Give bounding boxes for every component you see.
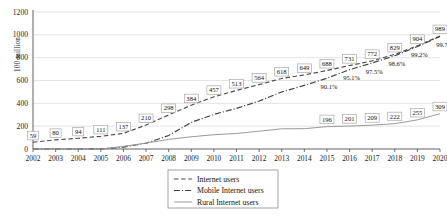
svg-text:618: 618 <box>277 68 288 75</box>
svg-text:731: 731 <box>345 55 355 62</box>
svg-text:Internet users: Internet users <box>197 175 239 184</box>
svg-text:95.1%: 95.1% <box>343 74 360 81</box>
svg-text:829: 829 <box>390 44 401 51</box>
x-axis-ticks: 2002200320042005200620072008200920102011… <box>26 149 447 163</box>
svg-text:210: 210 <box>141 114 152 121</box>
svg-text:800: 800 <box>17 53 29 62</box>
svg-text:2006: 2006 <box>116 154 131 163</box>
svg-text:2019: 2019 <box>410 154 425 163</box>
svg-text:97.5%: 97.5% <box>366 68 383 75</box>
chart-canvas: 100 million 020040060080010001200 200220… <box>0 0 447 216</box>
svg-text:Rural Internet users: Rural Internet users <box>197 198 259 207</box>
svg-text:2002: 2002 <box>26 154 41 163</box>
svg-text:309: 309 <box>435 103 446 110</box>
svg-text:649: 649 <box>299 64 310 71</box>
svg-text:2014: 2014 <box>297 154 312 163</box>
svg-text:2018: 2018 <box>387 154 402 163</box>
svg-text:2015: 2015 <box>320 154 335 163</box>
svg-text:2012: 2012 <box>252 154 267 163</box>
svg-text:98.6%: 98.6% <box>388 60 405 67</box>
data-labels: 5980941111372102983844575135646186496887… <box>28 25 447 140</box>
svg-text:1000: 1000 <box>13 30 28 39</box>
svg-text:384: 384 <box>186 95 197 102</box>
svg-text:400: 400 <box>17 99 29 108</box>
svg-text:0: 0 <box>24 145 28 154</box>
svg-text:209: 209 <box>367 114 378 121</box>
svg-text:298: 298 <box>164 104 175 111</box>
svg-text:2020: 2020 <box>433 154 447 163</box>
svg-text:989: 989 <box>435 25 446 32</box>
svg-text:111: 111 <box>96 126 105 133</box>
svg-text:513: 513 <box>232 80 243 87</box>
svg-text:80: 80 <box>52 129 59 136</box>
svg-text:457: 457 <box>209 86 220 93</box>
svg-text:222: 222 <box>390 113 400 120</box>
svg-text:904: 904 <box>412 35 423 42</box>
svg-text:Mobile Internet users: Mobile Internet users <box>197 186 264 195</box>
svg-text:2010: 2010 <box>206 154 221 163</box>
svg-text:2005: 2005 <box>93 154 108 163</box>
svg-text:200: 200 <box>17 122 29 131</box>
svg-text:201: 201 <box>345 115 355 122</box>
svg-text:2011: 2011 <box>229 154 244 163</box>
y-axis-ticks: 020040060080010001200 <box>13 8 28 154</box>
svg-text:2017: 2017 <box>365 154 380 163</box>
svg-text:1200: 1200 <box>13 8 28 17</box>
svg-text:94: 94 <box>75 128 82 135</box>
svg-text:2016: 2016 <box>342 154 357 163</box>
svg-text:2008: 2008 <box>161 154 176 163</box>
svg-text:59: 59 <box>30 132 37 139</box>
chart-legend: Internet usersMobile Internet usersRural… <box>168 170 278 208</box>
svg-text:196: 196 <box>322 116 333 123</box>
svg-text:137: 137 <box>118 123 129 130</box>
svg-text:255: 255 <box>412 109 423 116</box>
svg-text:99.7: 99.7 <box>436 41 447 48</box>
svg-text:2007: 2007 <box>139 154 154 163</box>
svg-text:99.2%: 99.2% <box>411 51 428 58</box>
svg-text:2004: 2004 <box>71 154 86 163</box>
svg-text:564: 564 <box>254 74 265 81</box>
svg-text:688: 688 <box>322 60 333 67</box>
svg-text:600: 600 <box>17 76 29 85</box>
svg-text:2009: 2009 <box>184 154 199 163</box>
chart-root: 100 million 020040060080010001200 200220… <box>0 0 447 216</box>
svg-text:2003: 2003 <box>48 154 63 163</box>
line-chart-svg: 020040060080010001200 200220032004200520… <box>0 0 447 216</box>
svg-text:2013: 2013 <box>274 154 289 163</box>
svg-text:772: 772 <box>367 50 377 57</box>
svg-text:90.1%: 90.1% <box>321 83 338 90</box>
